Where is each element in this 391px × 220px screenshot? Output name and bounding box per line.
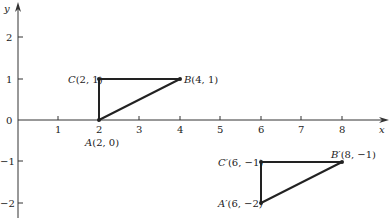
x-tick-labels: 1 2 3 4 5 6 7 8: [55, 124, 345, 135]
svg-text:3: 3: [136, 124, 142, 135]
svg-text:2: 2: [96, 124, 102, 135]
svg-text:5: 5: [217, 124, 223, 135]
svg-text:2: 2: [6, 32, 12, 43]
y-axis-label: y: [3, 3, 10, 14]
point-b-prime-label: B′(8, −1): [330, 149, 376, 160]
origin-label: 0: [6, 115, 12, 126]
point-b-label: B(4, 1): [183, 74, 218, 85]
y-tick-labels: 2 1 0 −1 −2: [0, 32, 15, 209]
x-axis-label: x: [379, 124, 385, 135]
triangle-abc-prime: [259, 160, 344, 205]
svg-text:6: 6: [258, 124, 264, 135]
triangle-abc: [97, 77, 182, 122]
svg-text:7: 7: [298, 124, 304, 135]
point-a-label: A(2, 0): [84, 137, 119, 148]
point-a-prime-label: A′(6, −2): [217, 198, 263, 209]
point-b-prime: [340, 160, 344, 164]
svg-text:4: 4: [177, 124, 183, 135]
point-c-label: C(2, 1): [68, 74, 103, 85]
svg-text:1: 1: [55, 124, 61, 135]
svg-text:8: 8: [339, 124, 345, 135]
svg-text:1: 1: [6, 74, 12, 85]
point-c-prime-label: C′(6, −1): [218, 157, 263, 168]
coordinate-plane: y x 1 2 3 4 5 6 7 8 2 1 0 −1 −2: [0, 0, 391, 220]
svg-text:−1: −1: [0, 156, 15, 167]
svg-text:−2: −2: [0, 198, 15, 209]
point-b: [178, 77, 182, 81]
point-a: [97, 118, 101, 122]
